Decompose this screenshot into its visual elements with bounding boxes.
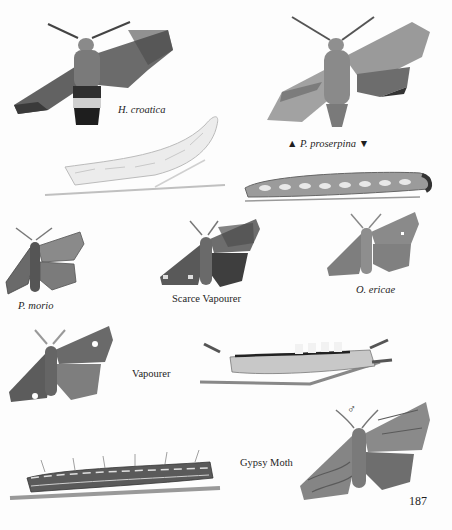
vapourer-caption: Vapourer: [132, 368, 170, 379]
page-number: 187: [409, 494, 427, 509]
p-proserpina-moth-illustration: [262, 12, 432, 132]
gypsy-moth-caterpillar-illustration: [5, 448, 225, 506]
scarce-vapourer-moth-illustration: [158, 215, 263, 290]
scarce-vapourer-caption: Scarce Vapourer: [172, 293, 241, 304]
o-ericae-moth-illustration: [325, 210, 420, 280]
p-morio-caption: P. morio: [18, 300, 53, 311]
p-proserpina-caterpillar-illustration: [240, 163, 440, 203]
p-proserpina-caption: ▲ P. proserpina ▼: [287, 138, 369, 149]
h-croatica-caterpillar-illustration: [35, 105, 250, 200]
gypsy-moth-male-illustration: [298, 400, 433, 505]
o-ericae-caption: O. ericae: [356, 284, 395, 295]
book-page: H. croatica ▲ P. proserpina ▼: [0, 0, 452, 530]
vapourer-moth-illustration: [5, 322, 115, 402]
p-morio-moth-illustration: [2, 222, 87, 297]
gypsy-moth-caption: Gypsy Moth: [240, 457, 293, 468]
vapourer-caterpillar-illustration: [200, 332, 400, 392]
